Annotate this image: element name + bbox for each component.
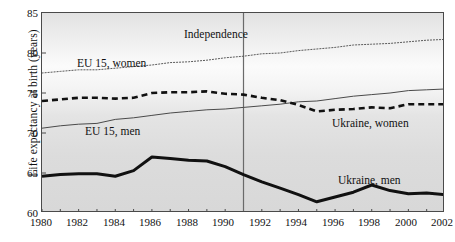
y-tick-75: 75 [12, 88, 38, 98]
cut-off-caption [0, 233, 455, 242]
x-tick-1994: 1994 [275, 216, 317, 228]
annotation-independence: Independence [184, 28, 248, 40]
y-tick-70: 70 [12, 128, 38, 138]
y-tick-65: 65 [12, 168, 38, 178]
series-label-ukraine-men: Ukraine, men [338, 174, 401, 186]
series-label-eu-women: EU 15, women [77, 57, 146, 69]
y-tick-80: 80 [12, 48, 38, 58]
chart-figure: Life expectancy at birth (years) 85 80 7… [0, 0, 455, 242]
y-tick-85: 85 [12, 8, 38, 18]
y-tick-marks [42, 53, 46, 173]
x-tick-1998: 1998 [348, 216, 390, 228]
plot-area: Independence EU 15, women EU 15, men Ukr… [41, 12, 444, 212]
series-label-ukraine-women: Ukraine, women [332, 117, 409, 129]
series-label-eu-men: EU 15, men [85, 125, 140, 137]
x-tick-1990: 1990 [202, 216, 244, 228]
y-axis-tick-labels: 85 80 75 70 65 60 [8, 0, 38, 242]
x-tick-2002: 2002 [421, 216, 455, 228]
x-tick-1986: 1986 [129, 216, 171, 228]
x-tick-1982: 1982 [56, 216, 98, 228]
